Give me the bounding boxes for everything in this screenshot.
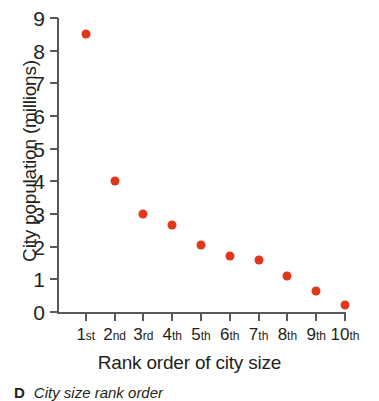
- y-axis-tick-label: 1: [33, 269, 45, 290]
- x-axis-tick: [171, 312, 173, 321]
- x-axis-tick: [200, 312, 202, 321]
- y-axis-tick-label: 2: [33, 236, 45, 257]
- y-axis-tick: 8: [50, 50, 58, 52]
- y-axis-tick-label: 3: [33, 204, 45, 225]
- x-axis-tick: [85, 312, 87, 321]
- caption-text: City size rank order: [34, 384, 163, 401]
- plot-area: 0123456789 1st2nd3rd4th5th6th7th8th9th10…: [57, 18, 345, 313]
- x-axis-tick: [258, 312, 260, 321]
- x-axis-tick-label: 2nd: [103, 326, 126, 343]
- data-point: [110, 177, 119, 186]
- y-axis-tick-label: 6: [33, 106, 45, 127]
- y-axis-tick-label: 5: [33, 138, 45, 159]
- x-axis-tick-label: 5th: [191, 326, 210, 343]
- data-point: [168, 220, 177, 229]
- x-axis-tick: [344, 312, 346, 321]
- figure-caption: DCity size rank order: [14, 384, 163, 401]
- x-axis-title: Rank order of city size: [0, 352, 379, 374]
- x-axis-tick-label: 6th: [220, 326, 239, 343]
- y-axis-tick: 9: [50, 17, 58, 19]
- data-point: [197, 241, 206, 250]
- y-axis-tick-label: 0: [33, 302, 45, 323]
- y-axis-tick: 0: [50, 311, 58, 313]
- y-axis-line: [57, 18, 59, 314]
- y-axis-tick-label: 8: [33, 40, 45, 61]
- y-axis-tick: 1: [50, 278, 58, 280]
- x-axis-tick-label: 3rd: [133, 326, 153, 343]
- data-point: [254, 255, 263, 264]
- data-point: [81, 30, 90, 39]
- x-axis-tick-label: 8th: [278, 326, 297, 343]
- y-axis-tick: 7: [50, 82, 58, 84]
- x-axis-tick: [114, 312, 116, 321]
- data-point: [139, 210, 148, 219]
- y-axis-tick-label: 9: [33, 8, 45, 29]
- x-axis-tick: [315, 312, 317, 321]
- y-axis-tick-label: 4: [33, 171, 45, 192]
- x-axis-tick-label: 10th: [331, 326, 360, 343]
- y-axis-tick-label: 7: [33, 73, 45, 94]
- y-axis-tick: 2: [50, 246, 58, 248]
- data-point: [225, 252, 234, 261]
- y-axis-tick: 3: [50, 213, 58, 215]
- caption-letter: D: [14, 384, 25, 401]
- x-axis-tick: [286, 312, 288, 321]
- x-axis-tick-label: 9th: [306, 326, 325, 343]
- x-axis-tick-label: 7th: [249, 326, 268, 343]
- y-axis-tick: 4: [50, 180, 58, 182]
- x-axis-tick-label: 4th: [162, 326, 181, 343]
- y-axis-tick: 5: [50, 148, 58, 150]
- x-axis-tick: [229, 312, 231, 321]
- x-axis-tick-label: 1st: [76, 326, 95, 343]
- data-point: [312, 286, 321, 295]
- data-point: [341, 301, 350, 310]
- y-axis-tick: 6: [50, 115, 58, 117]
- data-point: [283, 272, 292, 281]
- x-axis-tick: [142, 312, 144, 321]
